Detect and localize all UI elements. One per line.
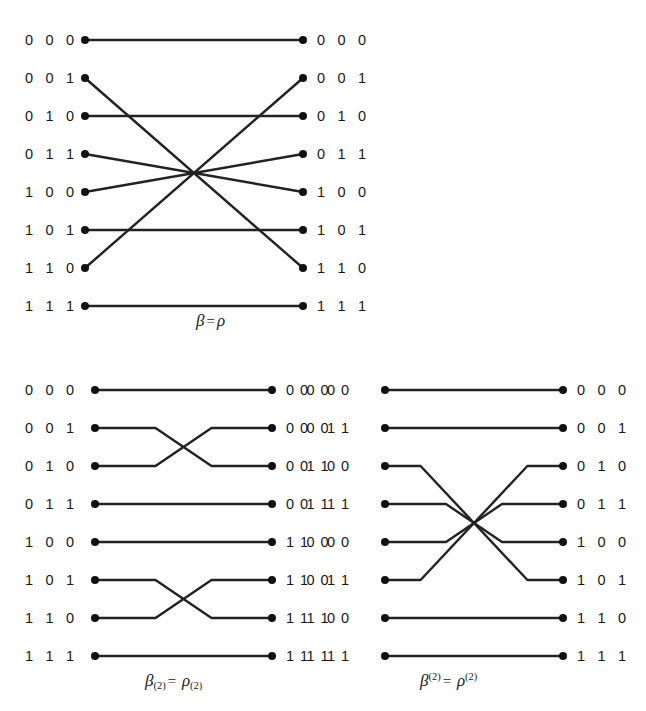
node-left-7	[81, 302, 89, 310]
node-right-3	[299, 150, 307, 158]
row-label-left-0: 0 0 0	[300, 383, 353, 398]
row-label-left-7: 1 1 1	[300, 649, 353, 664]
row-label-right-5: 1 0 1	[577, 573, 630, 588]
row-label-left-7: 1 1 1	[25, 649, 78, 664]
row-label-left-2: 0 1 0	[300, 459, 353, 474]
node-left-2	[91, 462, 99, 470]
row-label-left-6: 1 1 0	[300, 611, 353, 626]
connector-101-to-010	[385, 466, 563, 580]
node-left-7	[91, 652, 99, 660]
row-label-left-2: 0 1 0	[25, 109, 78, 124]
caption-equals: =	[204, 313, 216, 329]
node-right-3	[268, 500, 276, 508]
node-right-1	[268, 424, 276, 432]
node-right-7	[559, 652, 567, 660]
row-label-right-3: 0 1 1	[317, 147, 370, 162]
caption-top: β=ρ	[196, 312, 225, 329]
row-label-left-5: 1 0 1	[25, 573, 78, 588]
diagram-beta-sup2-equals-rho-sup2: 0 0 00 0 10 1 00 1 11 0 01 0 11 1 01 1 1…	[290, 360, 646, 711]
node-left-6	[81, 264, 89, 272]
caption-left-superscript: (2)	[428, 671, 440, 682]
node-left-6	[91, 614, 99, 622]
permutation-figure: 0 0 00 0 10 1 00 1 11 0 01 0 11 1 01 1 1…	[0, 0, 646, 711]
row-label-right-2: 0 1 0	[317, 109, 370, 124]
node-right-6	[268, 614, 276, 622]
row-label-left-5: 1 0 1	[300, 573, 353, 588]
row-label-right-0: 0 0 0	[577, 383, 630, 398]
node-left-5	[81, 226, 89, 234]
caption-left-subscript: (2)	[153, 680, 165, 691]
row-label-left-0: 0 0 0	[25, 383, 78, 398]
row-label-right-4: 1 0 0	[317, 185, 370, 200]
connector-010-to-001	[95, 428, 272, 466]
caption-right-superscript: (2)	[465, 671, 477, 682]
node-left-2	[81, 112, 89, 120]
node-right-5	[268, 576, 276, 584]
row-label-right-5: 1 0 1	[317, 223, 370, 238]
caption-equals: =	[166, 673, 178, 689]
row-label-right-1: 0 0 1	[577, 421, 630, 436]
node-left-4	[81, 188, 89, 196]
node-right-2	[559, 462, 567, 470]
row-label-right-6: 1 1 0	[577, 611, 630, 626]
row-label-left-7: 1 1 1	[25, 299, 78, 314]
row-label-left-6: 1 1 0	[25, 261, 78, 276]
node-left-2	[381, 462, 389, 470]
row-label-right-2: 0 1 0	[577, 459, 630, 474]
diagram-lines-top	[0, 0, 646, 330]
node-left-0	[81, 36, 89, 44]
row-label-right-7: 1 1 1	[317, 299, 370, 314]
row-label-left-4: 1 0 0	[25, 185, 78, 200]
caption-right-symbol: ρ	[182, 671, 190, 690]
node-right-0	[299, 36, 307, 44]
caption-equals: =	[441, 673, 453, 689]
node-right-5	[299, 226, 307, 234]
node-right-2	[299, 112, 307, 120]
node-right-2	[268, 462, 276, 470]
row-label-right-1: 0 0 1	[317, 71, 370, 86]
row-label-right-7: 1 1 1	[577, 649, 630, 664]
node-left-1	[91, 424, 99, 432]
node-right-0	[559, 386, 567, 394]
row-label-left-6: 1 1 0	[25, 611, 78, 626]
node-right-5	[559, 576, 567, 584]
row-label-left-1: 0 0 1	[25, 71, 78, 86]
node-left-0	[91, 386, 99, 394]
node-left-1	[81, 74, 89, 82]
node-left-4	[381, 538, 389, 546]
row-label-left-4: 1 0 0	[25, 535, 78, 550]
node-right-6	[299, 264, 307, 272]
node-right-3	[559, 500, 567, 508]
row-label-left-0: 0 0 0	[25, 33, 78, 48]
node-right-1	[559, 424, 567, 432]
node-right-4	[299, 188, 307, 196]
diagram-lines-bottom-left	[0, 360, 320, 690]
row-label-left-3: 0 1 1	[300, 497, 353, 512]
connector-110-to-101	[95, 580, 272, 618]
row-label-right-0: 0 0 0	[317, 33, 370, 48]
node-left-5	[381, 576, 389, 584]
node-left-6	[381, 614, 389, 622]
node-left-1	[381, 424, 389, 432]
node-right-4	[268, 538, 276, 546]
row-label-left-1: 0 0 1	[25, 421, 78, 436]
node-left-4	[91, 538, 99, 546]
node-left-7	[381, 652, 389, 660]
caption-right-subscript: (2)	[190, 680, 202, 691]
row-label-left-2: 0 1 0	[25, 459, 78, 474]
node-left-3	[81, 150, 89, 158]
node-right-7	[268, 652, 276, 660]
node-right-4	[559, 538, 567, 546]
node-left-0	[381, 386, 389, 394]
row-label-left-1: 0 0 1	[300, 421, 353, 436]
caption-right-symbol: ρ	[217, 311, 225, 330]
node-right-7	[299, 302, 307, 310]
row-label-left-3: 0 1 1	[25, 497, 78, 512]
caption-bottom-right: β(2)= ρ(2)	[420, 672, 477, 689]
node-right-1	[299, 74, 307, 82]
row-label-right-6: 1 1 0	[317, 261, 370, 276]
node-left-5	[91, 576, 99, 584]
diagram-beta-sub2-equals-rho-sub2: 0 0 00 0 10 1 00 1 11 0 01 0 11 1 01 1 1…	[0, 360, 320, 711]
node-right-6	[559, 614, 567, 622]
row-label-right-4: 1 0 0	[577, 535, 630, 550]
